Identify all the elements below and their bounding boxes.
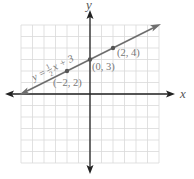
equation-prefix: y = bbox=[29, 67, 48, 84]
point-neg2-2 bbox=[65, 69, 69, 73]
x-axis-label: x bbox=[179, 86, 186, 101]
y-axis bbox=[87, 10, 94, 174]
svg-text:y =: y = bbox=[29, 67, 48, 84]
point-2-4 bbox=[111, 46, 115, 50]
y-axis-label: y bbox=[84, 0, 92, 12]
coordinate-plane-figure: x y (−2, 2) (0, 3) (2, 4) y = 1 2 x + 3 bbox=[0, 0, 194, 179]
equation-suffix: x + 3 bbox=[50, 53, 76, 73]
point-label-0-3: (0, 3) bbox=[92, 61, 115, 73]
point-label-2-4: (2, 4) bbox=[117, 47, 140, 59]
point-label-neg2-2: (−2, 2) bbox=[53, 77, 82, 89]
